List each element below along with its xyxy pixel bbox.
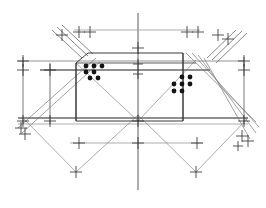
dot-cluster-left-dot-3 [84,70,89,75]
canvas-background [0,0,266,208]
dot-cluster-right-dot-6 [180,89,185,94]
dot-cluster-right-dot-1 [188,75,193,80]
dot-cluster-left-dot-6 [96,76,101,81]
dot-cluster-left-dot-0 [84,64,89,69]
dot-cluster-left-dot-5 [88,76,93,81]
dot-cluster-right-dot-5 [172,89,177,94]
dot-cluster-right-dot-2 [172,82,177,87]
dot-cluster-left-dot-2 [100,64,105,69]
dot-cluster-left-dot-4 [92,70,97,75]
dot-cluster-left-dot-1 [92,64,97,69]
dot-cluster-right-dot-0 [180,75,185,80]
technical-line-drawing [0,0,266,208]
dot-cluster-right-dot-4 [188,82,193,87]
dot-cluster-right-dot-3 [180,82,185,87]
drawing-canvas: Technical Construction Line Drawing Mono… [0,0,266,208]
